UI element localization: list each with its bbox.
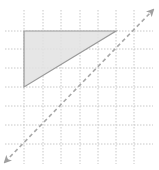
coordinate-grid-diagram <box>0 0 159 170</box>
shaded-triangle <box>24 31 116 87</box>
diagram-canvas <box>0 0 159 170</box>
